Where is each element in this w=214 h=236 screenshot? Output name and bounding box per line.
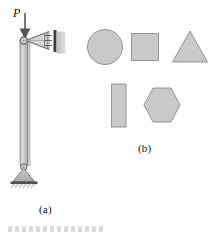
mechanics-figure: [0, 0, 214, 236]
fixed-wall: [54, 30, 66, 54]
wall-hatch: [57, 32, 66, 54]
circle-section: [88, 30, 123, 65]
figure-canvas: [0, 0, 214, 236]
ground-line: [11, 182, 38, 185]
page-text-rule: [8, 226, 104, 232]
hexagon-section: [144, 88, 180, 122]
panel-a: [11, 13, 66, 188]
load-label: P: [13, 6, 20, 21]
triangle-section: [173, 31, 208, 62]
panel-a-caption: (a): [39, 203, 52, 215]
vertical-column: [20, 40, 28, 165]
square-section: [132, 34, 159, 61]
wall-line: [54, 30, 57, 52]
panel-b: [88, 30, 208, 128]
rectangle-section: [112, 84, 127, 127]
panel-b-caption: (b): [138, 142, 151, 154]
pin-support-base: [11, 164, 38, 184]
hatched-ground: [11, 184, 35, 187]
support-triangle: [13, 169, 35, 182]
